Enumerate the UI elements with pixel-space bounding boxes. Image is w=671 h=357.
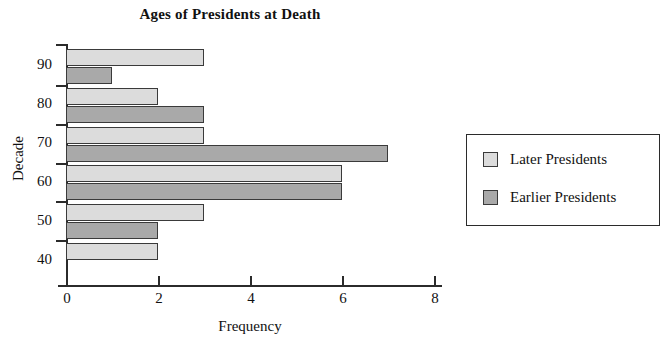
x-tick-label-0: 0 xyxy=(52,290,82,307)
y-tick-label-70: 70 xyxy=(24,134,52,151)
x-tick-6 xyxy=(342,276,344,287)
x-tick-label-2: 2 xyxy=(144,290,174,307)
x-tick-label-4: 4 xyxy=(236,290,266,307)
x-tick-label-8: 8 xyxy=(420,290,450,307)
y-tick-label-50: 50 xyxy=(24,212,52,229)
bar-90-earlier xyxy=(66,67,112,84)
bar-group-90 xyxy=(66,49,434,66)
chart-legend: Later Presidents Earlier Presidents xyxy=(466,134,660,226)
bar-group-90 xyxy=(66,67,434,84)
bar-group-50 xyxy=(66,204,434,221)
bar-group-70 xyxy=(66,145,434,162)
legend-label-later: Later Presidents xyxy=(510,151,607,168)
legend-swatch-earlier-icon xyxy=(483,190,498,205)
y-tick-label-90: 90 xyxy=(24,56,52,73)
bar-group-60 xyxy=(66,165,434,182)
bar-60-later xyxy=(66,165,342,182)
bar-group-80 xyxy=(66,106,434,123)
bar-group-70 xyxy=(66,127,434,144)
bar-40-later xyxy=(66,243,158,260)
y-tick-90 xyxy=(56,85,67,87)
bar-90-later xyxy=(66,49,204,66)
bar-60-earlier xyxy=(66,183,342,200)
y-tick-80 xyxy=(56,124,67,126)
x-tick-label-6: 6 xyxy=(328,290,358,307)
bar-group-50 xyxy=(66,222,434,239)
bar-50-later xyxy=(66,204,204,221)
y-tick-60 xyxy=(56,201,67,203)
x-tick-0 xyxy=(66,276,68,287)
y-tick-label-80: 80 xyxy=(24,95,52,112)
legend-swatch-later-icon xyxy=(483,152,498,167)
x-tick-8 xyxy=(434,276,436,287)
y-tick-70 xyxy=(56,163,67,165)
y-tick-top xyxy=(56,44,67,46)
x-tick-4 xyxy=(250,276,252,287)
y-tick-label-40: 40 xyxy=(24,251,52,268)
x-tick-2 xyxy=(158,276,160,287)
legend-entry-later: Later Presidents xyxy=(483,151,607,168)
legend-label-earlier: Earlier Presidents xyxy=(510,189,616,206)
bar-80-earlier xyxy=(66,106,204,123)
bar-50-earlier xyxy=(66,222,158,239)
bar-80-later xyxy=(66,88,158,105)
plot-area xyxy=(66,47,434,280)
bar-group-80 xyxy=(66,88,434,105)
x-axis-title: Frequency xyxy=(66,318,434,335)
bar-group-40 xyxy=(66,243,434,260)
bar-group-60 xyxy=(66,183,434,200)
bar-70-later xyxy=(66,127,204,144)
bar-70-earlier xyxy=(66,145,388,162)
y-tick-label-60: 60 xyxy=(24,173,52,190)
y-tick-50 xyxy=(56,240,67,242)
legend-entry-earlier: Earlier Presidents xyxy=(483,189,616,206)
chart-title: Ages of Presidents at Death xyxy=(0,6,460,23)
